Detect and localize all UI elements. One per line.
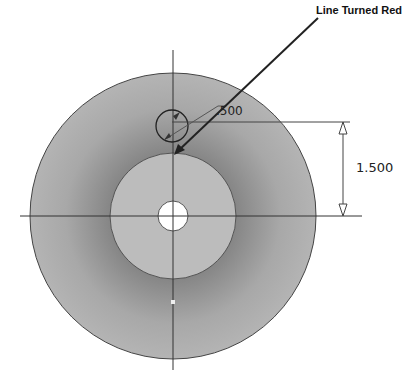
callout-label: Line Turned Red [316,4,402,16]
center-marker [171,300,175,304]
offset-dimension-label: 1.500 [356,160,393,175]
offset-arrow-top [339,122,347,134]
diameter-dimension-label: .500 [216,104,243,118]
offset-arrow-bottom [339,204,347,216]
